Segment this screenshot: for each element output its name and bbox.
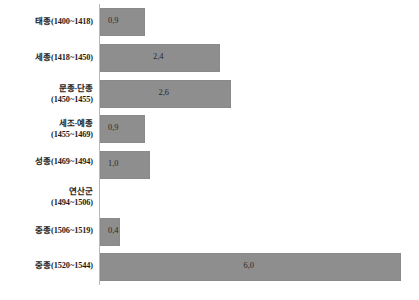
bar-value-label: 0,9 [108, 16, 118, 25]
category-label: 연산군(1494~1506) [0, 186, 93, 208]
bar [100, 115, 145, 143]
bar-value-label: 6,0 [244, 261, 254, 270]
category-reign-name: 태종 [35, 16, 51, 26]
category-reign-years: (1520~1544) [51, 261, 93, 270]
category-reign-name: 연산군 [0, 186, 93, 197]
category-reign-years: (1400~1418) [51, 17, 93, 26]
category-reign-years: (1418~1450) [51, 53, 93, 62]
category-reign-years: (1494~1506) [0, 197, 93, 208]
category-reign-years: (1469~1494) [51, 157, 93, 166]
category-label: 중종(1506~1519) [0, 225, 93, 236]
bar-chart: 태종(1400~1418)0,9세종(1418~1450)2,4문종·단종(14… [0, 0, 419, 300]
category-label: 세종(1418~1450) [0, 52, 93, 63]
bar-value-label: 0,9 [108, 123, 118, 132]
category-label: 문종·단종(1450~1455) [0, 83, 93, 105]
category-reign-name: 성종 [35, 156, 51, 166]
bar [100, 8, 145, 36]
category-reign-years: (1455~1469) [0, 129, 93, 140]
category-reign-name: 문종·단종 [0, 83, 93, 94]
bar-value-label: 0,4 [108, 226, 118, 235]
category-reign-name: 세종 [35, 52, 51, 62]
bar-value-label: 2,6 [159, 88, 169, 97]
bar-value-label: 2,4 [153, 52, 163, 61]
category-reign-name: 세조·예종 [0, 118, 93, 129]
category-reign-name: 중종 [35, 260, 51, 270]
category-label: 성종(1469~1494) [0, 156, 93, 167]
chart-rows: 태종(1400~1418)0,9세종(1418~1450)2,4문종·단종(14… [0, 0, 419, 300]
category-reign-years: (1450~1455) [0, 94, 93, 105]
category-reign-name: 중종 [35, 225, 51, 235]
category-label: 세조·예종(1455~1469) [0, 118, 93, 140]
category-label: 태종(1400~1418) [0, 16, 93, 27]
bar-value-label: 1,0 [108, 159, 118, 168]
category-reign-years: (1506~1519) [51, 226, 93, 235]
category-label: 중종(1520~1544) [0, 260, 93, 271]
